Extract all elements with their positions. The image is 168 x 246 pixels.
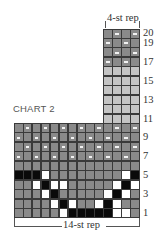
purl-dash-icon xyxy=(35,137,38,139)
purl-dash-icon xyxy=(80,146,83,148)
purl-dash-icon xyxy=(17,156,20,158)
purl-dash-icon xyxy=(53,156,56,158)
row-number-20: 20 xyxy=(143,28,154,38)
chart-cell xyxy=(130,29,140,39)
purl-dash-icon xyxy=(97,146,100,148)
chart-cell xyxy=(130,47,140,57)
purl-dash-icon xyxy=(62,127,65,129)
row-number-3: 3 xyxy=(143,189,148,199)
purl-dash-icon xyxy=(62,146,65,148)
purl-dash-icon xyxy=(115,52,118,54)
purl-dash-icon xyxy=(80,127,83,129)
chart-cell xyxy=(130,132,140,142)
purl-dash-icon xyxy=(106,137,109,139)
purl-dash-icon xyxy=(115,127,118,129)
top-rep-bracket-left xyxy=(105,21,106,28)
row-number-15: 15 xyxy=(143,76,154,86)
chart-cell xyxy=(130,180,140,190)
bottom-rep-bracket-right xyxy=(139,218,140,227)
purl-dash-icon xyxy=(133,127,136,129)
chart-cell xyxy=(130,170,140,180)
chart-cell xyxy=(130,161,140,171)
purl-dash-icon xyxy=(115,146,118,148)
purl-dash-icon xyxy=(124,137,127,139)
purl-dash-icon xyxy=(89,156,92,158)
bottom-rep-line-right xyxy=(106,226,139,227)
purl-dash-icon xyxy=(26,146,29,148)
row-number-7: 7 xyxy=(143,151,148,161)
purl-dash-icon xyxy=(106,61,109,63)
row-number-19: 19 xyxy=(143,38,154,48)
chart-cell xyxy=(130,151,140,161)
chart-cell xyxy=(130,142,140,152)
purl-dash-icon xyxy=(89,137,92,139)
purl-dash-icon xyxy=(133,33,136,35)
row-number-9: 9 xyxy=(143,132,148,142)
chart-cell xyxy=(130,208,140,218)
bottom-rep-label: 14-st rep xyxy=(63,219,100,230)
purl-dash-icon xyxy=(124,42,127,44)
row-number-5: 5 xyxy=(143,170,148,180)
purl-dash-icon xyxy=(35,156,38,158)
chart-cell xyxy=(130,95,140,105)
purl-dash-icon xyxy=(17,137,20,139)
chart-cell xyxy=(130,38,140,48)
purl-dash-icon xyxy=(71,137,74,139)
bottom-rep-line-left xyxy=(14,226,62,227)
chart-cell xyxy=(130,123,140,133)
purl-dash-icon xyxy=(26,127,29,129)
row-number-1: 1 xyxy=(143,208,148,218)
chart-cell xyxy=(130,57,140,67)
knitting-chart: CHART 2 4-st rep 13579111315171920 14-st… xyxy=(0,0,168,246)
purl-dash-icon xyxy=(124,61,127,63)
purl-dash-icon xyxy=(44,127,47,129)
purl-dash-icon xyxy=(133,146,136,148)
row-number-11: 11 xyxy=(143,114,153,124)
purl-dash-icon xyxy=(133,52,136,54)
chart-cell xyxy=(130,66,140,76)
chart-cell xyxy=(130,85,140,95)
top-rep-bracket-right xyxy=(139,21,140,28)
purl-dash-icon xyxy=(106,42,109,44)
row-number-17: 17 xyxy=(143,57,154,67)
chart-cell xyxy=(130,114,140,124)
purl-dash-icon xyxy=(124,156,127,158)
chart-cell xyxy=(130,199,140,209)
purl-dash-icon xyxy=(115,33,118,35)
chart-cell xyxy=(130,76,140,86)
chart-cell xyxy=(130,104,140,114)
row-number-13: 13 xyxy=(143,95,154,105)
top-rep-label: 4-st rep xyxy=(107,12,139,23)
purl-dash-icon xyxy=(106,156,109,158)
purl-dash-icon xyxy=(71,156,74,158)
purl-dash-icon xyxy=(53,137,56,139)
chart-title: CHART 2 xyxy=(13,103,55,114)
purl-dash-icon xyxy=(97,127,100,129)
chart-cell xyxy=(130,189,140,199)
purl-dash-icon xyxy=(44,146,47,148)
